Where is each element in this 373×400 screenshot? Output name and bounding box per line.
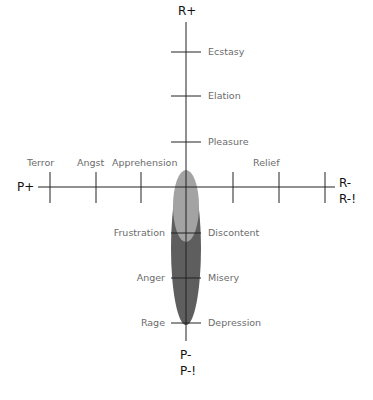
label-angst: Angst xyxy=(77,157,104,169)
axis-label-bottom-2: P-! xyxy=(180,364,196,378)
label-elation: Elation xyxy=(208,90,241,102)
label-misery: Misery xyxy=(208,272,239,284)
label-rage: Rage xyxy=(141,317,165,329)
label-relief: Relief xyxy=(253,157,280,169)
axis-label-top: R+ xyxy=(178,4,196,18)
label-depression: Depression xyxy=(208,317,261,329)
axis-label-left: P+ xyxy=(17,180,34,194)
diagram-canvas xyxy=(0,0,373,400)
axis-label-bottom-1: P- xyxy=(180,348,191,362)
axis-label-right-1: R- xyxy=(339,176,351,190)
axis-label-right-2: R-! xyxy=(339,192,356,206)
label-discontent: Discontent xyxy=(208,227,259,239)
label-terror: Terror xyxy=(27,157,54,169)
label-anger: Anger xyxy=(137,272,165,284)
label-ecstasy: Ecstasy xyxy=(208,46,244,58)
label-pleasure: Pleasure xyxy=(208,136,249,148)
label-frustration: Frustration xyxy=(114,227,165,239)
label-apprehension: Apprehension xyxy=(112,157,177,169)
emotion-diagram: R+ P+ R- R-! P- P-! Ecstasy Elation Plea… xyxy=(0,0,373,400)
